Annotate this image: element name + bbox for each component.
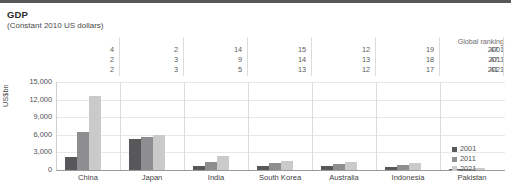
legend-label: 2021 (460, 165, 476, 174)
bar (141, 137, 153, 170)
ranking-column-separator (119, 37, 120, 76)
global-ranking-value: 13 (330, 55, 370, 65)
bar-group (249, 82, 313, 170)
ranking-column-separator (183, 37, 184, 76)
bar-group (313, 82, 377, 170)
global-ranking-value: 2 (138, 45, 178, 55)
legend-label: 2001 (460, 145, 476, 154)
global-ranking-value: 3 (138, 55, 178, 65)
chart-subtitle: (Constant 2010 US dollars) (7, 21, 104, 31)
global-ranking-value: 17 (394, 65, 434, 75)
global-ranking-value: 14 (266, 55, 306, 65)
x-axis-category-label: Japan (120, 173, 184, 182)
legend-item: 2011 (452, 155, 476, 164)
global-ranking-value: 18 (394, 55, 434, 65)
legend-swatch-icon (452, 157, 457, 162)
bar (321, 166, 333, 170)
global-ranking-value: 14 (202, 45, 242, 55)
legend-swatch-icon (452, 147, 457, 152)
x-axis-category-label: Pakistan (440, 173, 504, 182)
chart-figure: GDP (Constant 2010 US dollars) Global ra… (0, 0, 511, 186)
bar-group (185, 82, 249, 170)
global-ranking-year: 2001 (458, 45, 504, 55)
y-axis-title: US$bn (1, 84, 10, 107)
global-ranking-value: 12 (330, 65, 370, 75)
x-axis-category-label: China (56, 173, 120, 182)
global-ranking-table: Global ranking 4214151219472001239141318… (52, 37, 504, 76)
bar (65, 157, 77, 170)
y-axis-tick-label: 3,000 (8, 148, 52, 156)
x-axis-category-label: Indonesia (376, 173, 440, 182)
y-axis-tick-label: 9,000 (8, 113, 52, 121)
global-ranking-value: 3 (138, 65, 178, 75)
legend-item: 2021 (452, 165, 476, 174)
bar (193, 166, 205, 170)
bar-group (57, 82, 121, 170)
legend-swatch-icon (452, 166, 457, 171)
chart-legend: 200120112021 (452, 145, 476, 174)
ranking-column-separator (247, 37, 248, 76)
bar (257, 166, 269, 170)
y-axis-tick-label: 6,000 (8, 131, 52, 139)
bar (129, 139, 141, 170)
global-ranking-value: 15 (266, 45, 306, 55)
bar (77, 132, 89, 170)
global-ranking-year: 2021 (458, 65, 504, 75)
global-ranking-value: 5 (202, 65, 242, 75)
bar (333, 164, 345, 170)
chart-title: GDP (7, 9, 104, 20)
global-ranking-value: 19 (394, 45, 434, 55)
global-ranking-value: 4 (74, 45, 114, 55)
chart-header: GDP (Constant 2010 US dollars) (7, 9, 104, 31)
ranking-column-separator (311, 37, 312, 76)
legend-label: 2011 (460, 155, 476, 164)
ranking-column-separator (439, 37, 440, 76)
global-ranking-year: 2011 (458, 55, 504, 65)
x-axis-category-label: India (184, 173, 248, 182)
ranking-column-separator (375, 37, 376, 76)
bar-group (377, 82, 441, 170)
bar (153, 135, 165, 170)
global-ranking-value: 12 (330, 45, 370, 55)
global-ranking-value: 13 (266, 65, 306, 75)
bar-group (121, 82, 185, 170)
global-ranking-value: 2 (74, 65, 114, 75)
bar (345, 162, 357, 170)
y-axis-tick-label: 0 (8, 166, 52, 174)
bar (397, 165, 409, 170)
plot-area (56, 82, 505, 171)
bar (217, 156, 229, 170)
global-ranking-value: 9 (202, 55, 242, 65)
x-axis-category-label: Australia (312, 173, 376, 182)
y-axis-tick-label: 12,000 (8, 96, 52, 104)
bar (385, 167, 397, 170)
bar (409, 163, 421, 170)
global-ranking-value: 2 (74, 55, 114, 65)
bar (89, 96, 101, 171)
bar (281, 161, 293, 170)
bar (205, 162, 217, 170)
bar (269, 163, 281, 170)
ranking-column-separator (503, 37, 504, 76)
x-axis-category-label: South Korea (248, 173, 312, 182)
legend-item: 2001 (452, 145, 476, 154)
y-axis-tick-label: 15,000 (8, 78, 52, 86)
